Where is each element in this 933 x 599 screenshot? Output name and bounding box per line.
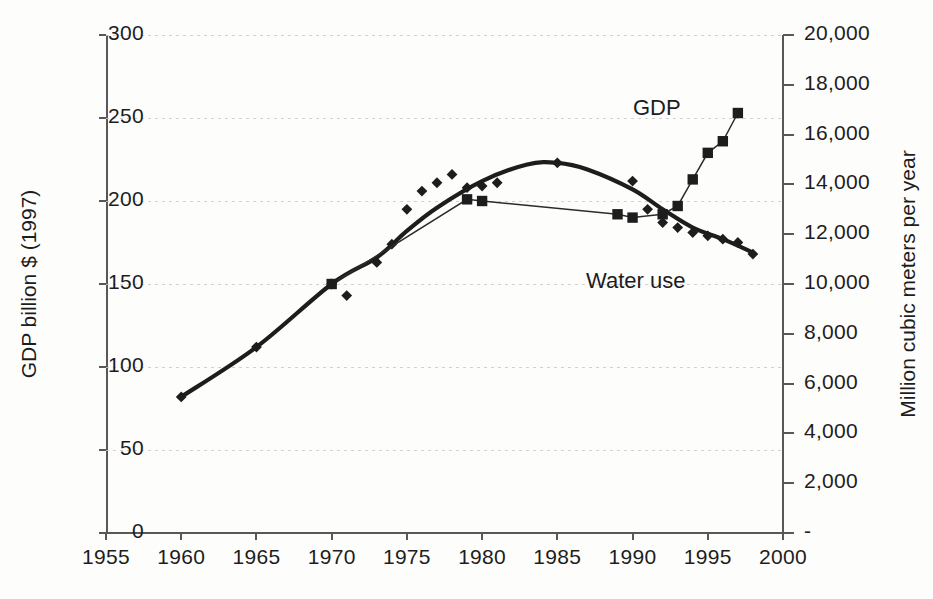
y-tick-label-right: 6,000 (804, 370, 858, 394)
x-tick (331, 533, 333, 540)
x-tick (481, 533, 483, 540)
x-tick (632, 533, 634, 540)
x-tick (180, 533, 182, 540)
x-tick (406, 533, 408, 540)
y-tick-label-left: 300 (108, 21, 144, 45)
y-tick-right (783, 134, 794, 136)
y-tick-label-right: 8,000 (804, 320, 858, 344)
y-tick-left (99, 34, 106, 36)
y-tick-right (783, 183, 794, 185)
y-axis-title-right: Million cubic meters per year (893, 35, 923, 533)
y-tick-left (99, 200, 106, 202)
y-tick-label-right: - (804, 519, 811, 543)
y-tick-label-left: 50 (120, 436, 144, 460)
y-tick-right (783, 283, 794, 285)
y-tick-label-right: 18,000 (804, 71, 870, 95)
gridline-y (106, 201, 783, 202)
gridline-y (106, 118, 783, 119)
gridline-y (106, 35, 783, 36)
chart-figure: GDP billion $ (1997) Million cubic meter… (0, 0, 933, 599)
y-tick-label-right: 4,000 (804, 419, 858, 443)
y-tick-right (783, 383, 794, 385)
y-tick-left (99, 117, 106, 119)
series-label-water-use: Water use (586, 268, 685, 294)
y-tick-right (783, 233, 794, 235)
y-tick-label-right: 12,000 (804, 220, 870, 244)
series-label-gdp: GDP (633, 95, 681, 121)
x-tick (782, 533, 784, 540)
x-tick (707, 533, 709, 540)
x-tick (105, 533, 107, 540)
y-tick-right (783, 84, 794, 86)
y-axis-title-left: GDP billion $ (1997) (14, 35, 44, 533)
y-tick-right (783, 482, 794, 484)
y-tick-right (783, 432, 794, 434)
y-tick-label-left: 100 (108, 353, 144, 377)
x-tick-label: 2000 (738, 545, 828, 569)
y-tick-label-left: 0 (132, 519, 144, 543)
y-tick-label-right: 2,000 (804, 469, 858, 493)
y-tick-label-left: 200 (108, 187, 144, 211)
y-tick-label-right: 14,000 (804, 170, 870, 194)
y-tick-label-left: 150 (108, 270, 144, 294)
figure-caption (24, 586, 524, 596)
y-tick-right (783, 34, 794, 36)
y-tick-label-right: 10,000 (804, 270, 870, 294)
y-tick-left (99, 449, 106, 451)
gridline-y (106, 367, 783, 368)
y-tick-left (99, 366, 106, 368)
y-tick-label-right: 16,000 (804, 121, 870, 145)
y-tick-right (783, 532, 794, 534)
y-axis-title-right-text: Million cubic meters per year (896, 150, 920, 417)
x-tick (556, 533, 558, 540)
x-tick (255, 533, 257, 540)
y-tick-label-right: 20,000 (804, 21, 870, 45)
y-tick-label-left: 250 (108, 104, 144, 128)
y-tick-left (99, 283, 106, 285)
y-tick-right (783, 333, 794, 335)
y-axis-title-left-text: GDP billion $ (1997) (17, 190, 41, 379)
gridline-y (106, 450, 783, 451)
